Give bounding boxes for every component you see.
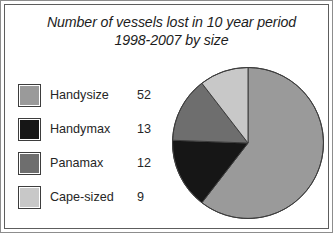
legend-value-handymax: 13 <box>137 119 151 139</box>
legend-label-handysize: Handysize <box>50 85 109 105</box>
legend-item-panamax: Panamax 12 <box>19 151 169 185</box>
chart-title: Number of vessels lost in 10 year period… <box>15 13 328 49</box>
legend-value-cape-sized: 9 <box>137 187 144 207</box>
pie-chart-svg <box>172 67 324 219</box>
legend-value-handysize: 52 <box>137 85 151 105</box>
chart-title-line-2: 1998-2007 by size <box>15 31 328 49</box>
chart-title-line-1: Number of vessels lost in 10 year period <box>15 13 328 31</box>
chart-legend: Handysize 52 Handymax 13 Panamax 12 Cape… <box>19 83 169 219</box>
legend-item-handymax: Handymax 13 <box>19 117 169 151</box>
legend-label-panamax: Panamax <box>50 153 103 173</box>
chart-screenshot: Number of vessels lost in 10 year period… <box>0 0 333 233</box>
pie-chart <box>172 67 324 219</box>
legend-value-panamax: 12 <box>137 153 151 173</box>
legend-label-cape-sized: Cape-sized <box>50 187 114 207</box>
pie-slice-group <box>172 68 323 219</box>
legend-swatch-panamax <box>19 153 40 174</box>
chart-panel: Number of vessels lost in 10 year period… <box>4 4 329 229</box>
legend-swatch-cape-sized <box>19 187 40 208</box>
legend-item-handysize: Handysize 52 <box>19 83 169 117</box>
legend-item-cape-sized: Cape-sized 9 <box>19 185 169 219</box>
legend-swatch-handymax <box>19 119 40 140</box>
legend-label-handymax: Handymax <box>50 119 110 139</box>
legend-swatch-handysize <box>19 85 40 106</box>
